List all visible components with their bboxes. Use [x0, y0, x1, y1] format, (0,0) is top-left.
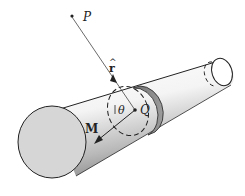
label-m: M [85, 122, 98, 136]
label-q: Q [140, 103, 150, 117]
label-r-hat: r [109, 62, 115, 75]
diagram-canvas: P ^ r Q θ M [0, 0, 245, 196]
label-p: P [82, 10, 92, 24]
point-p-dot [70, 14, 73, 17]
near-end-face [18, 106, 86, 178]
label-theta: θ [118, 104, 125, 117]
